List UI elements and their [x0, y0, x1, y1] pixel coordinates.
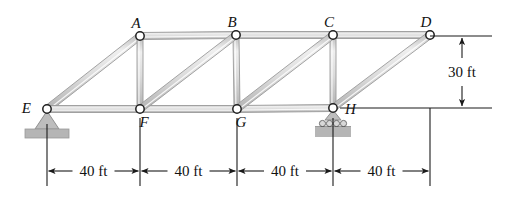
- roller-wheel-3: [333, 120, 339, 126]
- member-AF: [137, 36, 143, 109]
- member-BG: [233, 35, 240, 109]
- member-body-FB: [138, 32, 238, 112]
- joint-A: [136, 32, 144, 40]
- dim-GH-label: 40 ft: [271, 163, 300, 179]
- members-group: [45, 32, 432, 113]
- dim-height-label: 30 ft: [448, 64, 477, 80]
- dim-HD-label: 40 ft: [368, 163, 397, 179]
- member-EA: [45, 33, 142, 112]
- joint-F: [136, 105, 144, 113]
- member-EF: [47, 106, 140, 113]
- joint-label-H: H: [344, 101, 357, 117]
- joint-B: [232, 31, 240, 39]
- dim-FG-label: 40 ft: [175, 163, 204, 179]
- joint-G: [233, 105, 241, 113]
- dim-HD: 40 ft: [335, 163, 429, 179]
- member-FB: [138, 32, 238, 112]
- truss-canvas: ABCDEFGH 40 ft40 ft40 ft40 ft30 ft: [0, 0, 508, 200]
- roller-wheel-4: [340, 120, 346, 126]
- member-body-BC: [236, 32, 333, 39]
- joint-label-D: D: [420, 14, 432, 30]
- member-body-EF: [47, 106, 140, 113]
- joint-H: [329, 104, 337, 112]
- member-body-BG: [233, 35, 240, 109]
- member-FG: [140, 106, 237, 113]
- joint-E: [43, 105, 51, 113]
- dim-EF-label: 40 ft: [80, 163, 109, 179]
- dim-FG: 40 ft: [142, 163, 236, 179]
- dim-GH: 40 ft: [239, 163, 332, 179]
- member-AB: [140, 32, 236, 40]
- joint-label-E: E: [21, 100, 31, 116]
- joint-label-A: A: [130, 15, 141, 31]
- roller-wheel-2: [326, 120, 332, 126]
- joint-label-B: B: [227, 14, 236, 30]
- member-body-GH: [237, 105, 333, 113]
- member-BC: [236, 32, 333, 39]
- member-body-CH: [330, 35, 336, 108]
- member-highlight-HD: [334, 36, 431, 109]
- member-CH: [330, 35, 336, 108]
- joint-label-C: C: [324, 14, 335, 30]
- truss-figure: ABCDEFGH 40 ft40 ft40 ft40 ft30 ft: [0, 0, 508, 200]
- member-body-GC: [235, 32, 335, 112]
- supports-group: [25, 110, 351, 138]
- member-body-CD: [333, 32, 430, 39]
- joint-C: [329, 31, 337, 39]
- member-GC: [235, 32, 335, 112]
- member-highlight-GC: [238, 36, 334, 110]
- member-highlight-EA: [48, 37, 141, 110]
- member-GH: [237, 105, 333, 113]
- member-HD: [331, 32, 432, 111]
- member-CD: [333, 32, 430, 39]
- member-body-FG: [140, 106, 237, 113]
- member-body-AF: [137, 36, 143, 109]
- member-body-EA: [45, 33, 142, 112]
- member-body-AB: [140, 32, 236, 40]
- roller-wheel-1: [319, 120, 325, 126]
- dim-EF: 40 ft: [49, 163, 139, 179]
- joint-D: [426, 31, 434, 39]
- member-highlight-FB: [141, 36, 237, 110]
